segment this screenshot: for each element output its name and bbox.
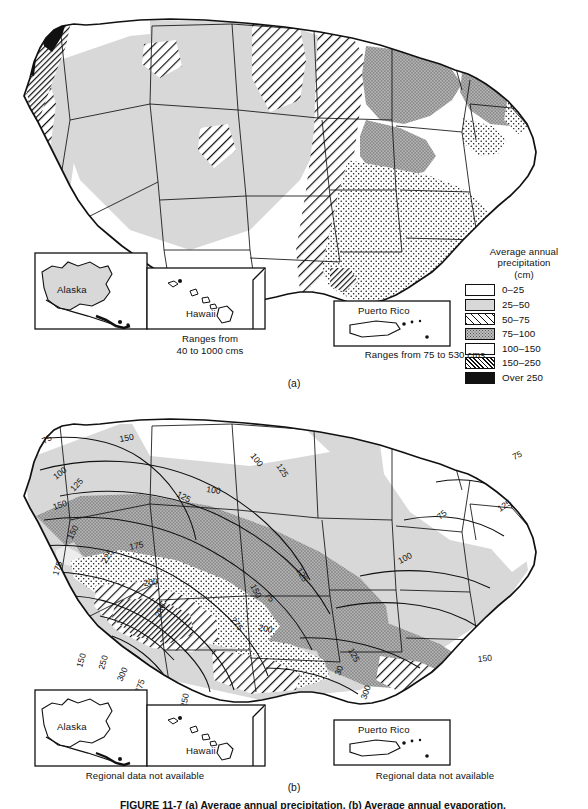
swatch-50-75 [465,313,495,325]
legend-item-50-75: 50–75 [465,313,583,325]
inset-label-alaska-a: Alaska [57,284,87,295]
inset-note-puerto-rico-b: Regional data not available [320,770,550,782]
inset-note-puerto-rico-a: Ranges from 75 to 530 cms [330,349,520,361]
figure-container: Average annual precipitation (cm) 0–25 2… [0,0,588,809]
legend-label-0-25: 0–25 [502,284,524,296]
legend-label-75-100: 75–100 [502,328,535,340]
legend-item-over-250: Over 250 [465,372,583,384]
panel-a-precipitation: Average annual precipitation (cm) 0–25 2… [0,0,588,400]
svg-text:75: 75 [511,449,524,462]
legend-label-50-75: 50–75 [502,314,530,326]
svg-text:300: 300 [115,665,130,682]
map-b-canvas: 75 150 100 125 100 125 125 100 150 150 1… [0,400,588,785]
svg-text:150: 150 [477,653,493,664]
panel-b-evaporation: 75 150 100 125 100 125 125 100 150 150 1… [0,400,588,785]
figure-caption: FIGURE 11-7 (a) Average annual precipita… [120,800,570,809]
svg-text:150: 150 [74,652,88,669]
legend-precipitation-title: Average annual precipitation (cm) [465,246,583,280]
legend-item-75-100: 75–100 [465,328,583,340]
panel-letter-a: (a) [274,378,314,389]
inset-label-alaska-b: Alaska [57,721,87,732]
inset-alaska-a [35,253,147,329]
inset-label-hawaii-b: Hawaii [186,745,216,756]
swatch-25-50 [465,299,495,311]
inset-note-alaska-hawaii-b: Regional data not available [30,770,260,782]
inset-hawaii-a [147,268,265,329]
inset-hawaii-b [147,705,265,766]
legend-label-25-50: 25–50 [502,299,530,311]
svg-text:100: 100 [206,484,222,496]
svg-text:200: 200 [143,576,159,588]
legend-item-0-25: 0–25 [465,284,583,296]
svg-text:250: 250 [96,654,110,671]
inset-alaska-b [35,690,147,766]
panel-letter-b: (b) [274,782,314,793]
legend-label-over-250: Over 250 [502,372,543,384]
legend-precipitation: Average annual precipitation (cm) 0–25 2… [465,246,583,386]
swatch-over-250 [465,372,495,384]
inset-label-puerto-rico-b: Puerto Rico [358,724,410,735]
inset-label-puerto-rico-a: Puerto Rico [358,305,410,316]
swatch-75-100 [465,328,495,340]
inset-note-alaska-hawaii-a: Ranges from 40 to 1000 cms [135,333,285,356]
legend-item-25-50: 25–50 [465,299,583,311]
inset-label-hawaii-a: Hawaii [186,308,216,319]
swatch-0-25 [465,284,495,296]
